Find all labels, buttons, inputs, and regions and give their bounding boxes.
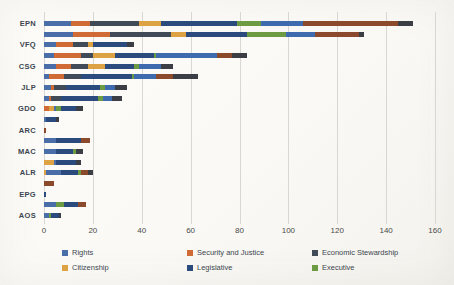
bar-segment-gray2	[88, 170, 93, 175]
bar-segment-economic	[90, 21, 139, 26]
x-tick-label: 20	[80, 226, 106, 235]
category-label: VFQ	[2, 40, 36, 49]
grid-line	[288, 12, 289, 224]
bar-segment-gray2	[112, 96, 122, 101]
bar-segment-brown	[44, 128, 46, 133]
grid-line	[386, 12, 387, 224]
bar-segment-legislative	[66, 85, 100, 90]
legend-label: Citizenship	[72, 263, 109, 272]
x-tick-label: 40	[129, 226, 155, 235]
grid-line	[435, 12, 436, 224]
stacked-bar	[44, 42, 134, 47]
legend-label: Economic Stewardship	[322, 248, 398, 257]
category-label: EPN	[2, 19, 36, 28]
bar-segment-rights	[44, 42, 56, 47]
stacked-bar	[44, 21, 413, 26]
bar-segment-rights	[44, 64, 56, 69]
bar-segment-blue2	[261, 21, 303, 26]
bar-segment-security	[73, 32, 110, 37]
bar-segment-citizenship	[171, 32, 186, 37]
x-tick-label: 160	[422, 226, 448, 235]
bar-segment-citizenship	[44, 160, 54, 165]
stacked-bar	[44, 117, 59, 122]
bar-segment-blue2	[286, 32, 315, 37]
bar-segment-legislative	[51, 213, 58, 218]
bar-segment-blue2	[156, 53, 217, 58]
legend-label: Executive	[322, 263, 355, 272]
stacked-bar	[44, 96, 122, 101]
bar-segment-legislative	[64, 202, 79, 207]
bar-segment-brown	[156, 74, 173, 79]
category-label: EPG	[2, 190, 36, 199]
bar-segment-citizenship	[88, 64, 105, 69]
bar-segment-rights	[44, 149, 56, 154]
bar-segment-legislative	[61, 106, 76, 111]
legend-item: Security and Justice	[187, 248, 264, 257]
x-tick-label: 100	[275, 226, 301, 235]
stacked-bar	[44, 106, 83, 111]
bar-segment-legislative	[61, 96, 98, 101]
bar-segment-blue2	[103, 96, 113, 101]
bar-segment-brown	[303, 21, 398, 26]
stacked-bar-chart: EPNVFQCSGJLPGDOARCMACALREPGAOS 020406080…	[0, 0, 454, 285]
bar-segment-rights	[46, 170, 61, 175]
legend-swatch-icon	[187, 265, 193, 271]
legend-swatch-icon	[62, 250, 68, 256]
bar-segment-brown	[78, 202, 85, 207]
bar-segment-gray2	[56, 117, 58, 122]
bar-segment-legislative	[105, 64, 134, 69]
bar-segment-executive	[237, 21, 261, 26]
bar-segment-security	[54, 53, 81, 58]
category-label: AOS	[2, 211, 36, 220]
bar-segment-rights	[44, 202, 56, 207]
legend-item: Legislative	[187, 263, 232, 272]
bar-segment-rights	[44, 138, 56, 143]
bar-segment-gray2	[127, 42, 134, 47]
legend-swatch-icon	[187, 250, 193, 256]
legend-swatch-icon	[312, 265, 318, 271]
bar-segment-security	[56, 42, 73, 47]
bar-segment-blue2	[134, 74, 156, 79]
x-tick-label: 0	[31, 226, 57, 235]
bar-segment-legislative	[56, 160, 76, 165]
legend-swatch-icon	[312, 250, 318, 256]
category-label: MAC	[2, 147, 36, 156]
bar-segment-brown	[315, 32, 359, 37]
bar-segment-blue2	[139, 64, 161, 69]
stacked-bar	[44, 64, 173, 69]
bar-segment-gray2	[398, 21, 413, 26]
bar-segment-executive	[247, 32, 286, 37]
bar-segment-legislative	[44, 192, 46, 197]
bar-segment-legislative	[186, 32, 247, 37]
bar-segment-security	[49, 74, 64, 79]
bar-segment-gray2	[76, 106, 83, 111]
x-tick-label: 80	[227, 226, 253, 235]
legend-label: Legislative	[197, 263, 232, 272]
bar-segment-economic	[110, 32, 171, 37]
bar-segment-brown	[217, 53, 232, 58]
grid-line	[191, 12, 192, 224]
bar-segment-gray2	[161, 64, 173, 69]
bar-segment-security	[56, 64, 71, 69]
bar-segment-citizenship	[139, 21, 161, 26]
bar-segment-economic	[54, 85, 66, 90]
bar-segment-legislative	[56, 138, 80, 143]
bar-segment-legislative	[81, 74, 132, 79]
bar-segment-legislative	[161, 21, 237, 26]
legend-label: Security and Justice	[197, 248, 264, 257]
bar-segment-rights	[44, 32, 73, 37]
bar-segment-economic	[64, 74, 81, 79]
grid-line	[337, 12, 338, 224]
bar-segment-rights	[44, 85, 51, 90]
stacked-bar	[44, 74, 198, 79]
category-label: ALR	[2, 168, 36, 177]
legend-label: Rights	[72, 248, 93, 257]
bar-segment-rights	[44, 53, 54, 58]
bar-segment-rights	[44, 21, 71, 26]
category-label: CSG	[2, 62, 36, 71]
x-tick-label: 60	[178, 226, 204, 235]
bar-segment-economic	[73, 42, 88, 47]
bar-segment-executive	[56, 202, 63, 207]
grid-line	[142, 12, 143, 224]
stacked-bar	[44, 138, 90, 143]
